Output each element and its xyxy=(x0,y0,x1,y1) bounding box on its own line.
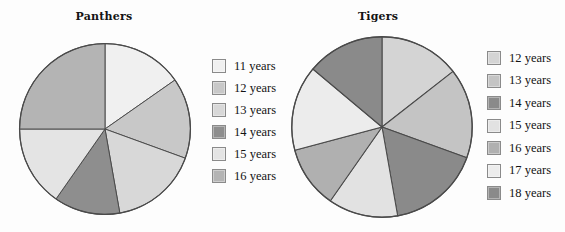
tigers-legend-row[interactable]: 18 years xyxy=(487,182,551,205)
tigers-legend-swatch-16-years xyxy=(487,141,501,155)
panthers-legend-label: 11 years xyxy=(234,59,276,74)
panthers-chart-panel: Panthers 11 years12 years13 years14 year… xyxy=(0,0,290,232)
tigers-legend-label: 18 years xyxy=(509,186,551,201)
panthers-legend-label: 13 years xyxy=(234,103,276,118)
panthers-legend-row[interactable]: 15 years xyxy=(212,143,276,165)
panthers-legend-row[interactable]: 14 years xyxy=(212,121,276,143)
tigers-legend-label: 17 years xyxy=(509,163,551,178)
tigers-legend-swatch-15-years xyxy=(487,119,501,133)
tigers-legend-row[interactable]: 15 years xyxy=(487,115,551,138)
tigers-legend-swatch-14-years xyxy=(487,96,501,110)
panthers-chart-title: Panthers xyxy=(16,10,192,23)
tigers-legend-swatch-13-years xyxy=(487,74,501,88)
tigers-legend-row[interactable]: 13 years xyxy=(487,70,551,93)
panthers-pie-chart xyxy=(16,40,194,218)
tigers-legend-swatch-17-years xyxy=(487,164,501,178)
panthers-pie-svg xyxy=(16,40,194,218)
panthers-slice-16-years[interactable] xyxy=(20,44,105,129)
panthers-legend-swatch-15-years xyxy=(212,147,226,161)
panthers-legend-label: 15 years xyxy=(234,147,276,162)
tigers-legend-swatch-18-years xyxy=(487,186,501,200)
tigers-legend: 12 years13 years14 years15 years16 years… xyxy=(487,47,551,205)
panthers-legend-swatch-16-years xyxy=(212,169,226,183)
tigers-pie-svg xyxy=(288,33,476,221)
tigers-legend-label: 15 years xyxy=(509,118,551,133)
tigers-legend-label: 14 years xyxy=(509,96,551,111)
tigers-legend-label: 13 years xyxy=(509,73,551,88)
panthers-legend-row[interactable]: 11 years xyxy=(212,55,276,77)
chart-canvas: Panthers 11 years12 years13 years14 year… xyxy=(0,0,565,232)
tigers-legend-label: 16 years xyxy=(509,141,551,156)
tigers-legend-label: 12 years xyxy=(509,51,551,66)
tigers-chart-title: Tigers xyxy=(290,10,466,23)
panthers-legend-swatch-14-years xyxy=(212,125,226,139)
panthers-legend-row[interactable]: 16 years xyxy=(212,165,276,187)
panthers-legend-label: 12 years xyxy=(234,81,276,96)
panthers-legend-label: 14 years xyxy=(234,125,276,140)
panthers-legend-swatch-13-years xyxy=(212,103,226,117)
tigers-legend-row[interactable]: 12 years xyxy=(487,47,551,70)
tigers-pie-chart xyxy=(288,33,476,221)
panthers-legend-swatch-12-years xyxy=(212,81,226,95)
panthers-legend: 11 years12 years13 years14 years15 years… xyxy=(212,55,276,187)
tigers-legend-swatch-12-years xyxy=(487,51,501,65)
tigers-legend-row[interactable]: 16 years xyxy=(487,137,551,160)
panthers-legend-row[interactable]: 12 years xyxy=(212,77,276,99)
panthers-legend-label: 16 years xyxy=(234,169,276,184)
panthers-legend-swatch-11-years xyxy=(212,59,226,73)
tigers-chart-panel: Tigers 12 years13 years14 years15 years1… xyxy=(282,0,565,232)
panthers-legend-row[interactable]: 13 years xyxy=(212,99,276,121)
tigers-legend-row[interactable]: 17 years xyxy=(487,160,551,183)
tigers-legend-row[interactable]: 14 years xyxy=(487,92,551,115)
